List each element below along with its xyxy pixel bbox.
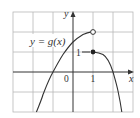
graph-figure: y = g(x) y x 0 1 1 <box>0 0 140 118</box>
curve-right-branch <box>93 52 122 112</box>
open-endpoint-marker <box>91 30 96 35</box>
function-label: y = g(x) <box>29 35 66 48</box>
origin-label: 0 <box>64 74 69 84</box>
closed-endpoint-marker <box>91 50 96 55</box>
y-axis-label: y <box>63 8 69 19</box>
y-tick-label-1: 1 <box>76 48 81 58</box>
x-tick-label-1: 1 <box>91 74 96 84</box>
x-axis-label: x <box>128 73 134 84</box>
